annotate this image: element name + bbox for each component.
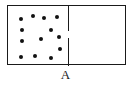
figure-caption: A — [0, 67, 133, 82]
right-chamber — [69, 6, 127, 64]
caption-label: A — [61, 67, 71, 82]
gas-diffusion-figure: A — [0, 0, 133, 85]
partition-lower-wall — [68, 38, 69, 66]
partition-upper-wall — [68, 6, 69, 31]
vessel-outline — [7, 5, 126, 65]
